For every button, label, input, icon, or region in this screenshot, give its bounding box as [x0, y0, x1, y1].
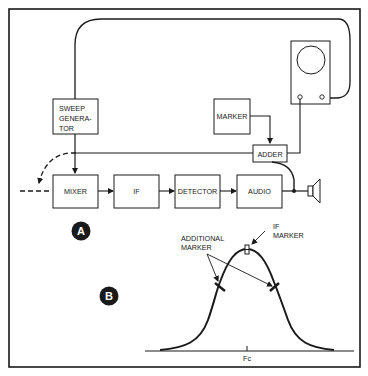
additional-marker-pointer-left: [207, 254, 218, 281]
adder-block: ADDER: [253, 145, 287, 162]
if-marker-label-1: IF: [273, 222, 280, 231]
audio-block: AUDIO: [237, 175, 282, 208]
junction-dot: [292, 189, 296, 193]
badge-b: B: [100, 287, 119, 306]
badge-a: A: [72, 222, 91, 241]
additional-marker-label-1: ADDITIONAL: [181, 234, 224, 243]
detector-block: DETECTOR: [175, 175, 220, 208]
response-curve-diagram: B Fc IF MARKER ADDITIONAL MARKER: [100, 222, 355, 363]
oscilloscope-icon: [291, 41, 330, 104]
marker-block: MARKER: [214, 99, 250, 134]
diagram-canvas: SWEEP GENERA- TOR MARKER ADDER: [0, 0, 368, 376]
fc-label: Fc: [243, 354, 251, 363]
audio-label: AUDIO: [248, 187, 271, 196]
badge-b-label: B: [105, 290, 113, 302]
sweep-generator-label-3: TOR: [59, 124, 74, 133]
if-label: IF: [133, 187, 140, 196]
if-block: IF: [114, 175, 159, 208]
mixer-label: MIXER: [64, 187, 87, 196]
sweep-generator-label-1: SWEEP: [59, 104, 85, 113]
badge-a-label: A: [77, 225, 85, 237]
sweep-generator-block: SWEEP GENERA- TOR: [53, 99, 98, 134]
block-diagram: SWEEP GENERA- TOR MARKER ADDER: [20, 19, 350, 241]
adder-label: ADDER: [257, 150, 282, 159]
if-marker-pip: [245, 245, 249, 254]
mixer-block: MIXER: [53, 175, 98, 208]
if-marker-pointer: [252, 231, 265, 244]
if-marker-label-2: MARKER: [273, 231, 304, 240]
marker-to-adder-wire: [250, 116, 270, 143]
response-curve: [160, 249, 334, 350]
additional-marker-label-2: MARKER: [181, 243, 212, 252]
sweep-generator-label-2: GENERA-: [59, 114, 92, 123]
marker-label: MARKER: [217, 112, 248, 121]
adder-to-scope-wire: [287, 99, 300, 153]
speaker-icon: [308, 179, 320, 203]
detector-label: DETECTOR: [178, 187, 217, 196]
